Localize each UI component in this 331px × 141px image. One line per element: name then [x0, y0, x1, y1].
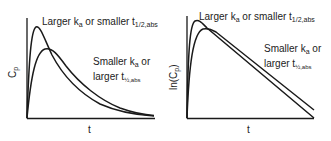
right-annotation-fast: Larger ka or smaller t1/2,abs	[199, 11, 315, 23]
right-annotation-slow-line1: Smaller ka or	[264, 43, 322, 55]
left-annotation-slow-line1: Smaller ka or	[93, 56, 151, 68]
left-annotation-slow-line2: larger t½,abs	[93, 71, 140, 83]
left-y-axis-label: Cp	[7, 67, 20, 78]
left-curve-fast-absorption	[27, 27, 154, 118]
left-curve-slow-absorption	[27, 49, 154, 118]
right-y-axis-label: ln(Cp)	[168, 64, 181, 90]
right-annotation-slow-line2: larger t½,abs	[264, 58, 311, 70]
left-plot-cp-vs-t: Larger ka or smaller t1/2,abs Smaller ka…	[7, 16, 158, 135]
left-annotation-fast: Larger ka or smaller t1/2,abs	[42, 16, 158, 28]
right-x-axis-label: t	[247, 124, 250, 135]
pk-curves-figure: Larger ka or smaller t1/2,abs Smaller ka…	[0, 0, 331, 141]
left-x-axis-label: t	[88, 124, 91, 135]
right-plot-lncp-vs-t: Larger ka or smaller t1/2,abs Smaller ka…	[168, 11, 322, 135]
